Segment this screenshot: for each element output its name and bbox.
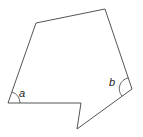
angle-label-b: b <box>109 76 115 88</box>
polygon-diagram: a b <box>0 0 143 137</box>
angle-label-a: a <box>19 87 25 99</box>
hexagon-shape <box>8 9 132 129</box>
